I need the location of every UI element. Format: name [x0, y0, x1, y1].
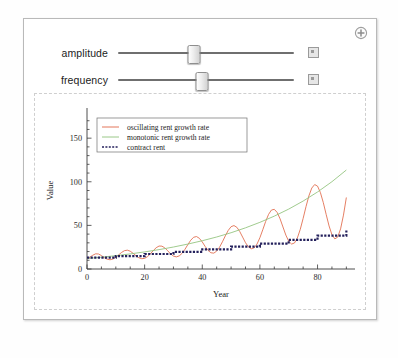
control-row-amplitude: amplitude	[24, 39, 376, 66]
rent-growth-chart: 020406080050100150YearValueoscillating r…	[35, 94, 365, 309]
manipulate-panel: amplitude frequency 020406080050100150Ye…	[23, 18, 377, 320]
y-tick-label: 0	[78, 265, 82, 274]
x-tick-label: 0	[85, 273, 89, 282]
slider-amplitude[interactable]	[118, 44, 294, 62]
y-axis-title: Value	[45, 181, 55, 201]
app-root: amplitude frequency 020406080050100150Ye…	[0, 0, 398, 358]
series-monotonic	[87, 170, 346, 259]
y-tick-label: 50	[74, 221, 82, 230]
slider-thumb[interactable]	[196, 72, 209, 91]
series-contract-rent	[87, 231, 346, 258]
y-tick-label: 150	[70, 134, 82, 143]
expand-square-icon[interactable]	[308, 47, 319, 58]
x-tick-label: 60	[256, 273, 264, 282]
x-tick-label: 20	[141, 273, 149, 282]
slider-track[interactable]	[118, 52, 294, 55]
slider-thumb[interactable]	[187, 45, 200, 64]
x-tick-label: 40	[198, 273, 206, 282]
legend-label: contract rent	[127, 143, 166, 152]
expand-square-icon[interactable]	[308, 74, 319, 85]
x-tick-label: 80	[313, 273, 321, 282]
y-tick-label: 100	[70, 178, 82, 187]
slider-label-amplitude: amplitude	[24, 47, 118, 59]
control-rows: amplitude frequency	[24, 39, 376, 93]
control-row-frequency: frequency	[24, 66, 376, 93]
x-axis-title: Year	[213, 289, 229, 299]
slider-label-frequency: frequency	[24, 74, 118, 86]
plus-circle-icon[interactable]	[354, 26, 368, 40]
legend-label: monotonic rent growth rate	[127, 133, 211, 142]
slider-frequency[interactable]	[118, 71, 294, 89]
plot-frame: 020406080050100150YearValueoscillating r…	[34, 93, 366, 310]
legend-label: oscillating rent growth rate	[127, 123, 210, 132]
